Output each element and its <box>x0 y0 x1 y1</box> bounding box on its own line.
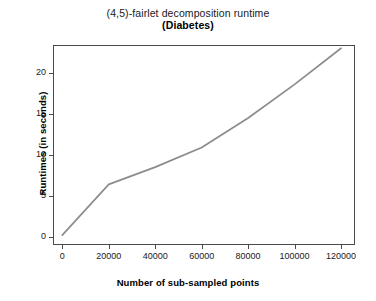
y-tick-mark <box>49 237 53 238</box>
y-axis-label: Runtimes (in seconds) <box>37 44 48 244</box>
chart-figure: (4,5)-fairlet decomposition runtime (Dia… <box>0 0 376 301</box>
x-tick-mark <box>295 245 296 249</box>
x-tick-mark <box>155 245 156 249</box>
x-tick-mark <box>248 245 249 249</box>
plot-canvas <box>53 45 355 245</box>
x-tick-mark <box>341 245 342 249</box>
chart-title: (4,5)-fairlet decomposition runtime <box>0 8 376 20</box>
chart-title-block: (4,5)-fairlet decomposition runtime (Dia… <box>0 8 376 32</box>
x-axis-label: Number of sub-sampled points <box>0 277 376 288</box>
data-series-line <box>62 48 341 235</box>
x-tick-mark <box>109 245 110 249</box>
chart-subtitle: (Diabetes) <box>0 20 376 32</box>
y-tick-mark <box>49 196 53 197</box>
y-tick-mark <box>49 114 53 115</box>
y-tick-mark <box>49 73 53 74</box>
x-tick-mark <box>62 245 63 249</box>
x-tick-label: 120000 <box>311 251 371 261</box>
y-tick-mark <box>49 155 53 156</box>
x-tick-mark <box>202 245 203 249</box>
